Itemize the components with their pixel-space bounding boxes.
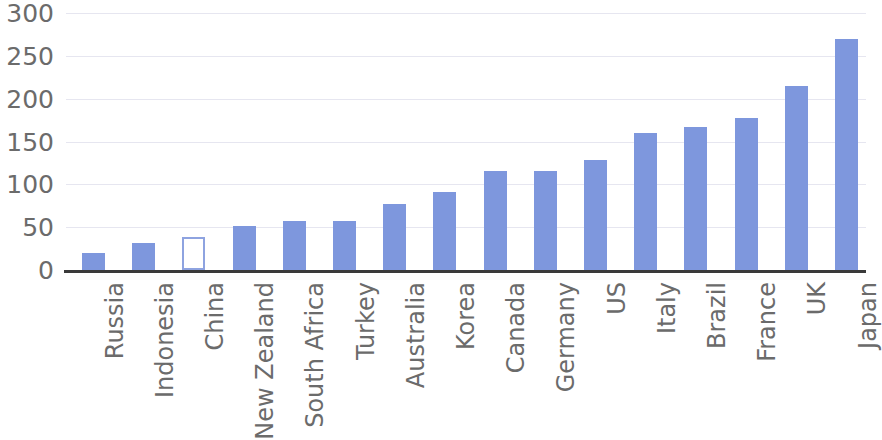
x-tick-label-italy: Italy bbox=[655, 282, 679, 334]
x-tick-label-korea: Korea bbox=[454, 282, 478, 350]
bar-indonesia[interactable] bbox=[132, 243, 155, 270]
bar-china[interactable] bbox=[182, 237, 205, 270]
bar-germany[interactable] bbox=[534, 171, 557, 270]
bar-us[interactable] bbox=[584, 160, 607, 270]
bar-new-zealand[interactable] bbox=[233, 226, 256, 270]
bar-south-africa[interactable] bbox=[283, 221, 306, 270]
bar-japan[interactable] bbox=[835, 39, 858, 270]
bar-brazil[interactable] bbox=[684, 127, 707, 270]
x-axis-baseline bbox=[64, 270, 866, 273]
bar-australia[interactable] bbox=[383, 204, 406, 270]
x-tick-label-south-africa: South Africa bbox=[303, 282, 327, 428]
x-axis-labels: RussiaIndonesiaChinaNew ZealandSouth Afr… bbox=[0, 278, 866, 433]
x-tick-label-indonesia: Indonesia bbox=[153, 282, 177, 398]
x-tick-label-new-zealand: New Zealand bbox=[253, 282, 277, 440]
x-tick-label-us: US bbox=[605, 282, 629, 315]
x-tick-label-australia: Australia bbox=[404, 282, 428, 388]
x-tick-label-germany: Germany bbox=[554, 282, 578, 392]
gridline bbox=[66, 13, 866, 14]
x-tick-label-canada: Canada bbox=[504, 282, 528, 373]
bar-korea[interactable] bbox=[433, 192, 456, 270]
bar-uk[interactable] bbox=[785, 86, 808, 270]
bar-turkey[interactable] bbox=[333, 221, 356, 270]
bar-france[interactable] bbox=[735, 118, 758, 270]
bar-italy[interactable] bbox=[634, 133, 657, 270]
gridline bbox=[66, 56, 866, 57]
x-tick-label-turkey: Turkey bbox=[354, 282, 378, 360]
gridline bbox=[66, 99, 866, 100]
x-tick-label-russia: Russia bbox=[103, 282, 127, 359]
x-tick-label-uk: UK bbox=[805, 282, 829, 315]
x-tick-label-japan: Japan bbox=[856, 282, 880, 349]
bar-russia[interactable] bbox=[82, 253, 105, 270]
x-tick-label-brazil: Brazil bbox=[705, 282, 729, 349]
x-tick-label-france: France bbox=[755, 282, 779, 362]
plot-area bbox=[0, 0, 866, 273]
bar-canada[interactable] bbox=[484, 171, 507, 270]
x-tick-label-china: China bbox=[203, 282, 227, 351]
